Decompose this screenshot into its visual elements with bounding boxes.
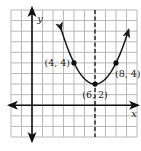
point-label: (8, 4) xyxy=(115,68,141,79)
point-label: (4, 4) xyxy=(44,57,70,68)
y-axis-label: y xyxy=(36,13,43,24)
data-point xyxy=(71,60,76,65)
x-axis-label: x xyxy=(131,108,137,119)
data-point xyxy=(92,81,97,86)
point-label: (6, 2) xyxy=(82,89,108,100)
parabola-graph: (4, 4)(6, 2)(8, 4) x y xyxy=(0,0,141,151)
data-point xyxy=(113,60,118,65)
